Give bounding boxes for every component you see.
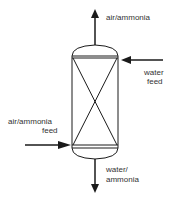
bottom-outlet-label-line1: water/ [105, 165, 129, 174]
water-feed-label-line2: feed [147, 77, 163, 86]
top-dome [72, 45, 118, 56]
bottom-dome [72, 148, 118, 159]
water-feed-label-line1: water [143, 68, 164, 77]
bottom-outlet-label-line2: ammonia [106, 175, 139, 184]
top-outlet-label: air/ammonia [106, 13, 151, 22]
absorption-column-diagram: air/ammonia water feed air/ammonia feed … [0, 0, 174, 202]
bottom-outlet-stream: water/ ammonia [91, 159, 139, 193]
water-feed-stream: water feed [121, 56, 164, 86]
gas-feed-label-line1: air/ammonia [8, 117, 53, 126]
column-vessel [72, 45, 118, 159]
top-outlet-stream: air/ammonia [91, 9, 151, 45]
gas-feed-label-line2: feed [42, 126, 58, 135]
gas-feed-stream: air/ammonia feed [8, 117, 71, 149]
